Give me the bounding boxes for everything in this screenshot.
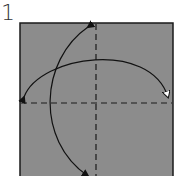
origami-diagram bbox=[0, 0, 180, 176]
